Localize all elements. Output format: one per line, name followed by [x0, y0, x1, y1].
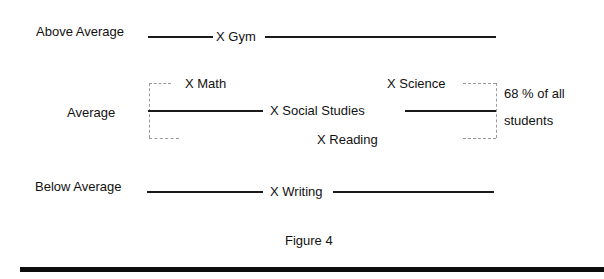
average-line-right — [405, 110, 496, 112]
level-label-above-average: Above Average — [36, 24, 124, 40]
below-line-right — [333, 191, 494, 193]
below-line-left — [147, 191, 263, 193]
subject-writing: X Writing — [270, 184, 323, 200]
average-line-left — [148, 110, 263, 112]
bottom-rule — [20, 267, 604, 272]
bracket-left-top — [149, 83, 171, 84]
bracket-note-line2: students — [504, 113, 553, 129]
level-label-below-average: Below Average — [35, 179, 122, 195]
bracket-right-top — [463, 83, 496, 84]
figure-caption: Figure 4 — [285, 233, 333, 249]
subject-reading: X Reading — [317, 132, 378, 148]
subject-math: X Math — [185, 76, 226, 92]
level-label-average: Average — [67, 105, 115, 121]
bracket-note-line1: 68 % of all — [504, 86, 565, 102]
subject-science: X Science — [387, 76, 446, 92]
subject-gym: X Gym — [216, 29, 256, 45]
bracket-right-bottom — [463, 138, 496, 139]
bracket-right — [496, 83, 497, 138]
bracket-left-bottom — [149, 138, 179, 139]
subject-social-studies: X Social Studies — [270, 103, 365, 119]
above-line-right — [265, 36, 496, 38]
above-line-left — [148, 36, 213, 38]
